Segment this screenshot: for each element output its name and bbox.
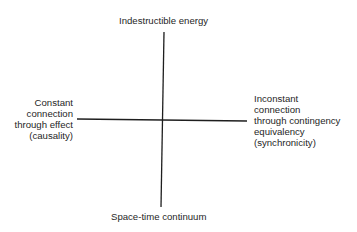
bottom-axis-label: Space-time continuum <box>111 211 206 222</box>
right-label-line: (synchronicity) <box>254 137 340 148</box>
right-label-line: equivalency <box>254 126 340 137</box>
right-axis-label: Inconstant connection through contingenc… <box>254 93 340 148</box>
right-label-line: through contingency <box>254 115 340 126</box>
left-label-line: connection <box>15 108 74 119</box>
left-label-line: through effect <box>15 119 74 130</box>
left-label-line: (causality) <box>15 130 74 141</box>
top-axis-label: Indestructible energy <box>119 15 208 26</box>
quadrant-diagram: Indestructible energy Space-time continu… <box>0 0 357 232</box>
left-axis-label: Constant connection through effect (caus… <box>15 97 74 141</box>
right-label-line: connection <box>254 104 340 115</box>
right-label-line: Inconstant <box>254 93 340 104</box>
left-label-line: Constant <box>15 97 74 108</box>
